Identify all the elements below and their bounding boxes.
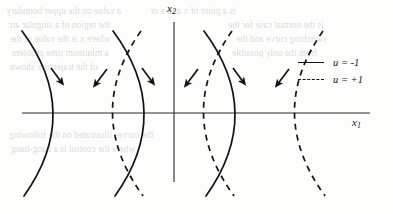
direction-arrow-icon	[142, 68, 153, 83]
legend: u = -1 u = +1	[296, 54, 388, 88]
legend-entry-dashed: u = +1	[296, 71, 388, 88]
direction-arrow-icon	[277, 69, 289, 85]
direction-arrow-group-solid	[51, 68, 244, 83]
direction-arrow-icon	[95, 69, 107, 85]
legend-label: u = -1	[326, 57, 359, 68]
legend-entry-solid: u = -1	[296, 54, 388, 71]
direction-arrow-icon	[233, 68, 244, 83]
legend-dashed-line-icon	[296, 76, 326, 84]
legend-label: u = +1	[326, 74, 363, 85]
direction-arrow-icon	[51, 68, 62, 83]
phase-plane-figure: a value on the upper boundary is a point…	[0, 0, 393, 214]
direction-arrow-group-dashed	[95, 69, 289, 85]
x-axis-label: x1	[352, 116, 361, 130]
legend-solid-line-icon	[296, 59, 326, 67]
direction-arrow-icon	[186, 69, 198, 85]
plot-canvas	[0, 0, 393, 214]
y-axis-label: x2	[167, 2, 176, 16]
